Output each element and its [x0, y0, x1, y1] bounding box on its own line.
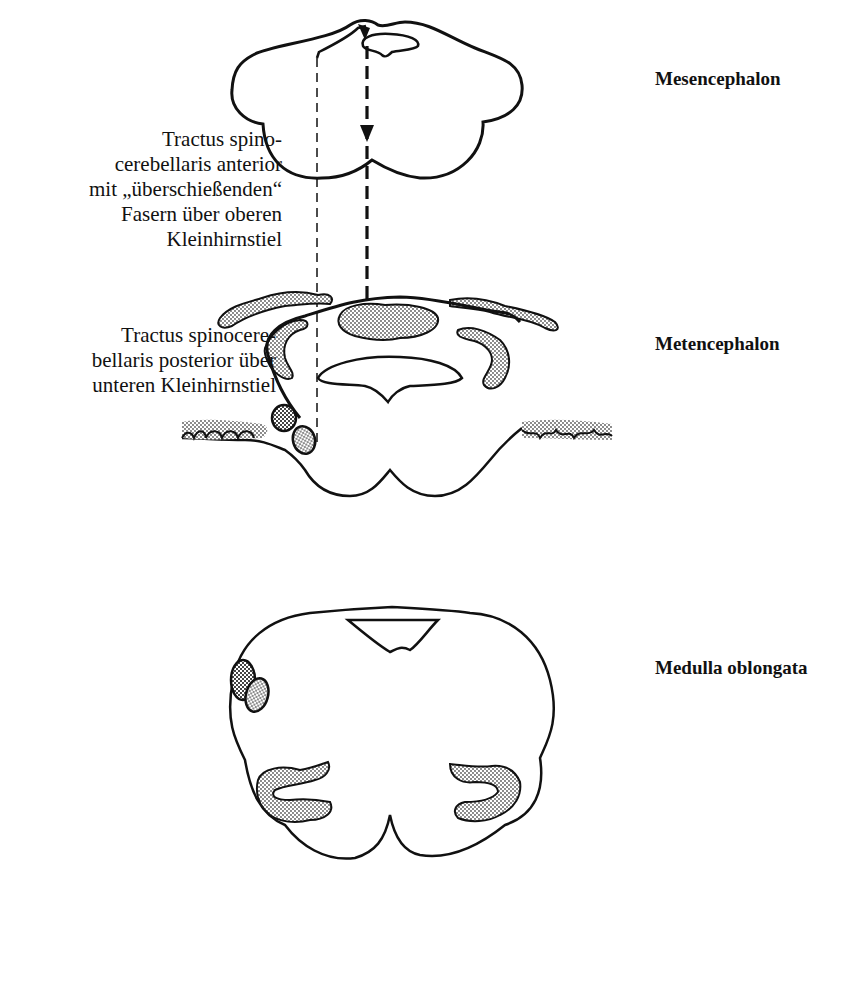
- annotation-posterior-tract: Tractus spinocere- bellaris posterior üb…: [92, 323, 276, 398]
- region-label-medulla-oblongata: Medulla oblongata: [655, 657, 808, 679]
- region-label-metencephalon: Metencephalon: [655, 333, 780, 355]
- anterior-tract-oval: [290, 424, 318, 457]
- spinocerebellar-tract-diagram: Tractus spino- cerebellaris anterior mit…: [0, 0, 864, 991]
- region-label-mesencephalon: Mesencephalon: [655, 68, 781, 90]
- medulla-section: [230, 607, 554, 859]
- posterior-tract-oval: [272, 405, 296, 431]
- anterior-tract-line: [360, 46, 374, 333]
- annotation-anterior-tract: Tractus spino- cerebellaris anterior mit…: [89, 127, 282, 252]
